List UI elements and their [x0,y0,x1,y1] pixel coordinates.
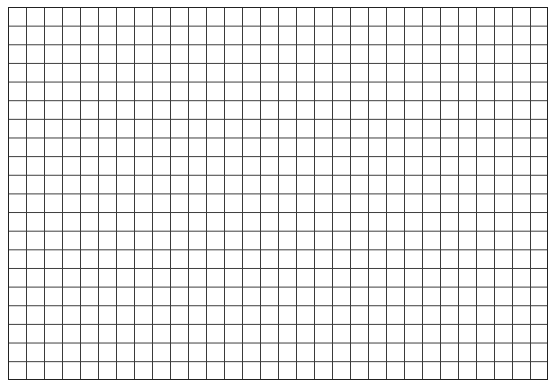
grid-paper [8,7,548,380]
